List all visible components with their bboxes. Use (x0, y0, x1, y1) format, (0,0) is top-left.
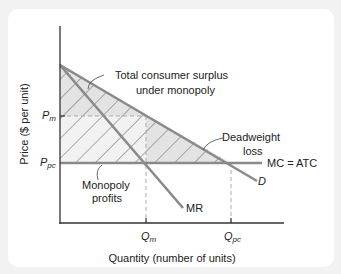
mr-label: MR (186, 202, 203, 214)
demand-label: D (258, 175, 266, 187)
monopoly-chart: Total consumer surplus under monopoly De… (0, 0, 341, 274)
dwl-label-line2: loss (243, 145, 263, 157)
qm-tick-label: Qm (141, 230, 157, 244)
dwl-leader-line (203, 138, 223, 150)
pm-tick-label: Pm (42, 109, 56, 123)
x-axis-title: Quantity (number of units) (108, 252, 235, 264)
cs-label-line2: under monopoly (136, 84, 215, 96)
y-axis-title: Price ($ per unit) (18, 83, 30, 164)
qpc-tick-label: Qpc (224, 230, 241, 244)
mc-atc-label: MC = ATC (267, 157, 317, 169)
profits-label-line2: profits (92, 192, 122, 204)
cs-label-line1: Total consumer surplus (115, 69, 229, 81)
ppc-tick-label: Ppc (40, 156, 56, 170)
profits-label-line1: Monopoly (82, 179, 130, 191)
profits-leader-line (97, 165, 102, 180)
dwl-label-line1: Deadweight (222, 131, 280, 143)
